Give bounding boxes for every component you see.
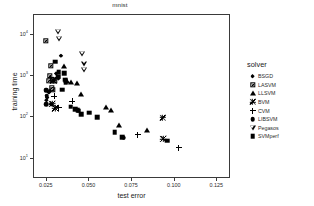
data-point-layer: [34, 15, 229, 177]
data-point: [81, 68, 87, 73]
data-point: [160, 114, 166, 120]
data-point: [44, 102, 49, 107]
legend-item-label: SVMperf: [258, 133, 279, 139]
legend-item-label: Pegasos: [258, 125, 279, 131]
x-tick-label: 0.075: [124, 182, 138, 188]
data-point: [95, 115, 100, 120]
legend-item-label: BVM: [258, 99, 269, 105]
legend-item-svmperf[interactable]: SVMperf: [247, 132, 313, 141]
filled-diamond-icon: [247, 72, 258, 81]
data-point: [116, 122, 122, 127]
data-point: [144, 127, 150, 132]
data-point: [165, 138, 170, 143]
data-point: [112, 130, 117, 135]
legend-item-cvm[interactable]: CVM: [247, 106, 313, 115]
filled-square-icon: [247, 132, 258, 141]
legend-item-llsvm[interactable]: LLSVM: [247, 89, 313, 98]
data-point: [78, 91, 84, 96]
data-point: [87, 110, 92, 115]
data-point: [60, 87, 65, 92]
y-tick-label: 101: [9, 155, 28, 161]
data-point: [53, 60, 58, 65]
data-point: [44, 88, 49, 93]
data-point: [50, 87, 55, 92]
data-point: [69, 98, 75, 104]
y-axis-label: training time: [11, 52, 18, 132]
data-point: [61, 64, 67, 69]
legend-item-pegasos[interactable]: Pegasos: [247, 124, 313, 133]
x-tick-mark: [131, 178, 132, 181]
plot-panel: [33, 14, 230, 178]
legend-item-label: LLSVM: [258, 90, 275, 96]
data-point: [56, 74, 61, 79]
x-tick-label: 0.025: [39, 182, 53, 188]
legend: solver BSGDLASVMLLSVMBVMCVMLIBSVMPegasos…: [247, 60, 313, 141]
legend-item-libsvm[interactable]: LIBSVM: [247, 115, 313, 124]
y-tick-mark: [30, 158, 33, 159]
y-tick-mark: [30, 34, 33, 35]
data-point: [62, 71, 67, 76]
x-tick-mark: [174, 178, 175, 181]
legend-item-label: LIBSVM: [258, 116, 277, 122]
x-tick-mark: [216, 178, 217, 181]
x-tick-label: 0.050: [82, 182, 96, 188]
legend-item-lasvm[interactable]: LASVM: [247, 81, 313, 90]
plus-icon: [247, 106, 258, 115]
data-point: [59, 53, 64, 58]
y-tick-mark: [30, 75, 33, 76]
data-point: [81, 61, 87, 66]
data-point: [44, 94, 49, 99]
x-tick-mark: [46, 178, 47, 181]
x-tick-label: 0.125: [210, 182, 224, 188]
data-point: [74, 81, 80, 86]
x-tick-mark: [88, 178, 89, 181]
y-tick-label: 104: [9, 31, 28, 37]
filled-triangle-icon: [247, 89, 258, 98]
legend-item-label: BSGD: [258, 73, 273, 79]
data-point: [56, 37, 62, 42]
data-point: [51, 93, 57, 99]
chart-title: mnist: [0, 1, 240, 8]
legend-item-label: CVM: [258, 108, 270, 114]
data-point: [176, 145, 182, 151]
data-point: [48, 75, 54, 81]
scatter-plot-figure: mnist 0.0250.0500.0750.1000.125 10110210…: [0, 0, 314, 206]
data-point: [108, 108, 114, 113]
x-tick-label: 0.100: [167, 182, 181, 188]
legend-item-bsgd[interactable]: BSGD: [247, 72, 313, 81]
data-point: [56, 105, 62, 111]
legend-entries: BSGDLASVMLLSVMBVMCVMLIBSVMPegasosSVMperf: [247, 72, 313, 141]
data-point: [79, 52, 85, 57]
data-point: [64, 80, 69, 85]
data-point: [68, 80, 74, 85]
filled-circle-icon: [247, 115, 258, 124]
legend-item-bvm[interactable]: BVM: [247, 98, 313, 107]
crossed-square-icon: [247, 81, 258, 90]
data-point: [79, 112, 84, 117]
asterisk-icon: [247, 98, 258, 107]
data-point: [120, 135, 125, 140]
data-point: [43, 38, 48, 43]
data-point: [135, 132, 141, 138]
legend-item-label: LASVM: [258, 82, 276, 88]
y-tick-mark: [30, 116, 33, 117]
data-point: [55, 30, 61, 35]
legend-title: solver: [247, 60, 313, 69]
open-down-triangle-icon: [247, 124, 258, 133]
x-axis-label: test error: [33, 192, 230, 199]
